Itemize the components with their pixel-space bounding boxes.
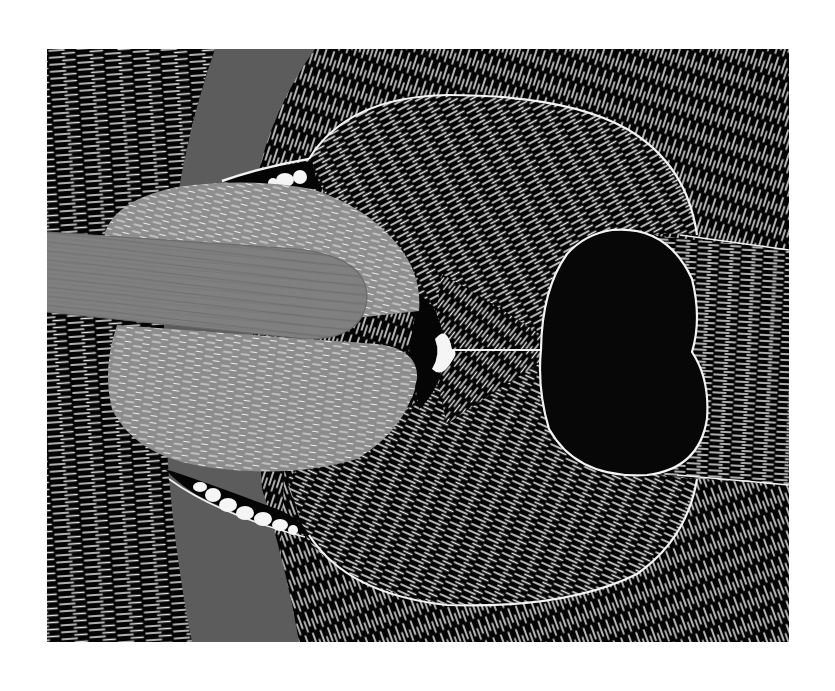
tooth <box>193 482 207 492</box>
tooth <box>219 498 237 512</box>
dog-nose <box>540 230 707 476</box>
lower-tongue-lobe <box>108 325 417 471</box>
tooth <box>293 170 307 184</box>
artwork-frame: Dog with stick, linocut print <box>47 49 789 642</box>
artwork-canvas <box>47 49 789 642</box>
tooth <box>205 488 221 502</box>
tooth <box>288 525 298 535</box>
tooth <box>236 506 254 520</box>
tooth <box>254 512 272 526</box>
tooth <box>272 519 288 531</box>
